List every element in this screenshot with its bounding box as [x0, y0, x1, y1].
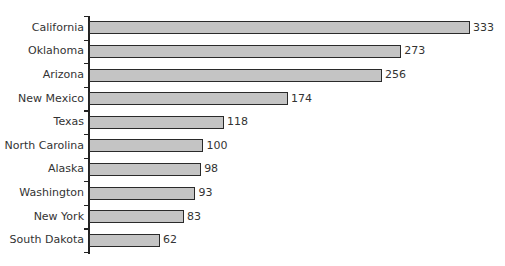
value-label: 100	[206, 139, 227, 153]
category-label: Alaska	[48, 162, 84, 176]
y-axis-tick	[84, 205, 89, 206]
bar	[89, 69, 382, 82]
bar	[89, 187, 195, 200]
bar	[89, 21, 470, 34]
bar	[89, 234, 160, 247]
category-label: New York	[34, 210, 84, 224]
y-axis-tick	[84, 63, 89, 64]
value-label: 93	[198, 186, 212, 200]
bar	[89, 210, 184, 223]
bar	[89, 139, 203, 152]
bar	[89, 116, 224, 129]
value-label: 174	[291, 92, 312, 106]
category-label: North Carolina	[4, 139, 84, 153]
category-label: Texas	[54, 115, 84, 129]
value-label: 98	[204, 162, 218, 176]
category-label: South Dakota	[10, 233, 84, 247]
horizontal-bar-chart: California333Oklahoma273Arizona256New Me…	[0, 0, 505, 266]
value-label: 62	[163, 233, 177, 247]
value-label: 83	[187, 210, 201, 224]
category-label: Washington	[19, 186, 84, 200]
y-axis-tick	[84, 252, 89, 253]
bar	[89, 45, 401, 58]
y-axis-tick	[84, 16, 89, 17]
value-label: 256	[385, 68, 406, 82]
y-axis-tick	[84, 134, 89, 135]
y-axis-tick	[84, 228, 89, 229]
value-label: 118	[227, 115, 248, 129]
value-label: 333	[473, 21, 494, 35]
category-label: Oklahoma	[28, 44, 84, 58]
y-axis-tick	[84, 181, 89, 182]
y-axis-tick	[84, 110, 89, 111]
y-axis-tick	[84, 40, 89, 41]
category-label: California	[32, 21, 84, 35]
bar	[89, 92, 288, 105]
category-label: Arizona	[43, 68, 84, 82]
value-label: 273	[404, 44, 425, 58]
bar	[89, 163, 201, 176]
category-label: New Mexico	[18, 92, 84, 106]
y-axis-tick	[84, 87, 89, 88]
y-axis-tick	[84, 158, 89, 159]
